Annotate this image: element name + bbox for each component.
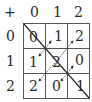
cell-1-1: 2: [52, 54, 61, 70]
col-header-0: 0: [30, 4, 39, 20]
operator-symbol: +: [4, 4, 16, 20]
cell-0-0: 0: [29, 29, 38, 45]
cell-1-2: 0: [75, 52, 84, 68]
cell-2-1: 0: [52, 78, 61, 94]
cell-2-2: 1: [76, 78, 85, 94]
col-header-2: 2: [74, 4, 83, 20]
cell-1-0: 1: [29, 54, 38, 70]
row-header-0: 0: [6, 28, 15, 44]
cell-2-0: 2: [29, 78, 38, 94]
arrow-down-left-icon: [39, 49, 46, 57]
cell-0-2: 2: [75, 28, 84, 44]
row-header-1: 1: [6, 53, 15, 69]
addition-table-diagram: + 0 1 2 0 1 2 0 1 2 1 2 0 2 0 1: [0, 0, 92, 102]
arrow-up-right-icon: [68, 66, 74, 74]
row-header-2: 2: [6, 78, 15, 94]
arrow-up-right-icon: [46, 41, 52, 49]
cell-0-1: 1: [54, 28, 63, 44]
arrow-down-left-icon: [61, 74, 68, 82]
col-header-1: 1: [53, 4, 62, 20]
